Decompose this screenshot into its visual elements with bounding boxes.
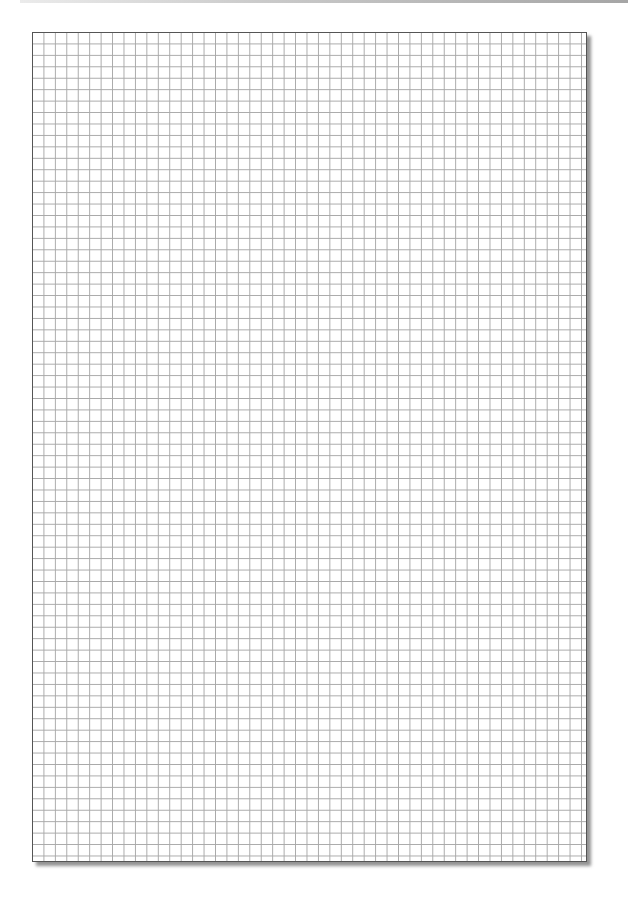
graph-paper-sheet [32, 32, 587, 862]
top-edge-rule [20, 0, 628, 3]
